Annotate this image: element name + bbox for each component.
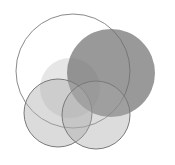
venn-diagram xyxy=(0,0,175,165)
circle-bottom-right xyxy=(62,81,130,149)
